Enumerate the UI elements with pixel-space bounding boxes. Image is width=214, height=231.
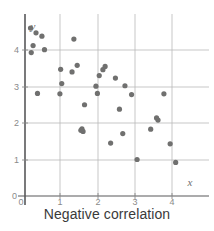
y-tick-label-0: 0 xyxy=(12,191,17,201)
data-point xyxy=(134,157,139,162)
data-point xyxy=(71,36,76,41)
data-point xyxy=(122,83,127,88)
data-point xyxy=(148,127,153,132)
y-tick-label-3: 3 xyxy=(14,82,19,92)
data-point xyxy=(108,140,113,145)
data-point xyxy=(129,92,134,97)
data-point xyxy=(30,43,35,48)
data-point xyxy=(173,160,178,165)
data-point xyxy=(59,81,64,86)
y-tick-label-4: 4 xyxy=(14,45,19,55)
data-point xyxy=(39,34,44,39)
scatter-plot-figure: 0 1 2 3 4 0 1 2 3 4 x y Negative correla… xyxy=(0,0,214,231)
data-point xyxy=(28,26,33,31)
data-point xyxy=(161,91,166,96)
chart-caption: Negative correlation xyxy=(0,206,214,222)
data-point xyxy=(42,47,47,52)
y-tick-label-1: 1 xyxy=(14,155,19,165)
data-point xyxy=(69,69,74,74)
data-point xyxy=(82,102,87,107)
data-point xyxy=(58,67,63,72)
data-point xyxy=(113,76,118,81)
data-point xyxy=(155,117,160,122)
data-point xyxy=(100,67,105,72)
data-point xyxy=(117,107,122,112)
y-tick-label-2: 2 xyxy=(14,118,19,128)
data-point xyxy=(93,84,98,89)
x-axis-label: x xyxy=(187,176,193,188)
axes-group xyxy=(18,14,209,205)
data-point xyxy=(29,50,34,55)
gridlines-group xyxy=(25,14,209,196)
data-point xyxy=(75,63,80,68)
data-point xyxy=(95,91,100,96)
scatter-plot-canvas: 0 1 2 3 4 0 1 2 3 4 x y xyxy=(0,0,214,231)
data-point xyxy=(35,91,40,96)
y-tick-labels-group: 0 1 2 3 4 xyxy=(12,45,19,201)
data-point xyxy=(97,73,102,78)
data-point xyxy=(120,131,125,136)
data-point xyxy=(78,128,83,133)
data-point xyxy=(57,91,62,96)
data-point xyxy=(168,141,173,146)
data-point xyxy=(33,30,38,35)
data-points-group xyxy=(28,26,178,166)
